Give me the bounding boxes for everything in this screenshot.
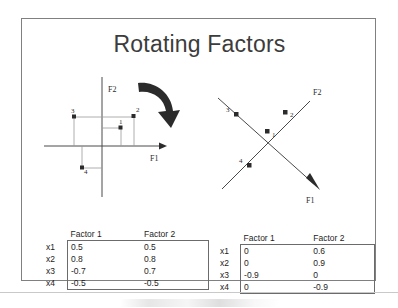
data-point-3-label: 3 [226, 106, 230, 114]
cell-x3-factor1: -0.9 [241, 269, 311, 281]
row-label-x1: x1 [46, 241, 68, 254]
data-point-2 [283, 110, 288, 115]
row-label-x1: x1 [220, 245, 241, 258]
f2-rotated-axis-label: F2 [313, 88, 321, 97]
table-header-row: Factor 1 Factor 2 [46, 228, 209, 241]
table-row: x2 0 0.9 [220, 257, 375, 269]
row-label-x2: x2 [220, 257, 241, 269]
table: Factor 1 Factor 2 x1 0.5 0.5 x2 0.8 0.8 [46, 228, 209, 290]
cell-x4-factor2: -0.5 [141, 277, 209, 290]
rotated-loadings-table: Factor 1 Factor 2 x1 0 0.6 x2 0 0.9 [220, 232, 375, 294]
page-divider [0, 292, 398, 293]
cell-x1-factor1: 0.5 [68, 241, 142, 254]
corner-cell [46, 228, 68, 241]
cell-x3-factor2: 0.7 [141, 265, 209, 277]
data-point-4 [247, 163, 252, 168]
table-head: Factor 1 Factor 2 [46, 228, 209, 241]
cell-x1-factor2: 0.5 [141, 241, 209, 254]
unrotated-loadings-table: Factor 1 Factor 2 x1 0.5 0.5 x2 0.8 0.8 [46, 228, 209, 290]
unrotated-plot-svg: 2 1 3 4 F2 F1 [30, 67, 200, 207]
table: Factor 1 Factor 2 x1 0 0.6 x2 0 0.9 [220, 232, 375, 294]
row-label-x2: x2 [46, 253, 68, 265]
table-row: x4 -0.5 -0.5 [46, 277, 209, 290]
cell-x2-factor1: 0.8 [68, 253, 142, 265]
table-head: Factor 1 Factor 2 [220, 232, 375, 245]
table-row: x3 -0.9 0 [220, 269, 375, 281]
f1-rotated-axis-label: F1 [306, 196, 314, 205]
row-label-x4: x4 [46, 277, 68, 290]
page-title: Rotating Factors [22, 31, 377, 58]
f1-axis-label: F1 [150, 154, 158, 163]
cell-x2-factor2: 0.9 [310, 257, 374, 269]
corner-cell [220, 232, 241, 245]
rotated-factor-plot: 2 1 3 4 F2 F1 [200, 67, 372, 207]
slide-frame: Rotating Factors [21, 18, 376, 281]
clockwise-rotation-arrow-icon [138, 83, 180, 128]
table-row: x3 -0.7 0.7 [46, 265, 209, 277]
data-point-2 [132, 114, 136, 118]
slide-root: Rotating Factors [0, 0, 398, 308]
f1-arrowhead-icon [159, 143, 167, 150]
cell-x2-factor2: 0.8 [141, 253, 209, 265]
row-label-x3: x3 [46, 265, 68, 277]
data-point-1-label: 1 [119, 118, 123, 126]
cell-x2-factor1: 0 [241, 257, 311, 269]
data-point-1 [265, 129, 270, 134]
column-header-factor-1: Factor 1 [241, 232, 311, 245]
table-body: x1 0 0.6 x2 0 0.9 x3 -0.9 0 [220, 245, 375, 294]
f1-rotated-arrowhead-icon [306, 173, 320, 190]
unrotated-factor-plot: 2 1 3 4 F2 F1 [30, 67, 200, 207]
cell-x3-factor1: -0.7 [68, 265, 142, 277]
data-point-2-label: 2 [136, 106, 140, 114]
table-row: x2 0.8 0.8 [46, 253, 209, 265]
data-point-1-label: 1 [272, 131, 276, 139]
data-point-4-label: 4 [239, 157, 243, 165]
data-point-3 [72, 115, 76, 119]
table-row: x1 0 0.6 [220, 245, 375, 258]
table-body: x1 0.5 0.5 x2 0.8 0.8 x3 -0.7 0.7 [46, 241, 209, 290]
cell-x1-factor2: 0.6 [310, 245, 374, 258]
column-header-factor-2: Factor 2 [310, 232, 374, 245]
data-point-3-label: 3 [71, 107, 75, 115]
cell-x3-factor2: 0 [310, 269, 374, 281]
data-point-2-label: 2 [290, 111, 294, 119]
column-header-factor-1: Factor 1 [68, 228, 142, 241]
page-footer-sliver [120, 299, 280, 307]
table-header-row: Factor 1 Factor 2 [220, 232, 375, 245]
cell-x1-factor1: 0 [241, 245, 311, 258]
data-point-1 [119, 126, 123, 130]
row-label-x3: x3 [220, 269, 241, 281]
column-header-factor-2: Factor 2 [141, 228, 209, 241]
data-point-4-label: 4 [84, 168, 88, 176]
data-point-3 [234, 112, 239, 117]
rotated-plot-svg: 2 1 3 4 F2 F1 [200, 67, 372, 207]
f2-axis-label: F2 [108, 85, 116, 94]
table-row: x1 0.5 0.5 [46, 241, 209, 254]
cell-x4-factor1: -0.5 [68, 277, 142, 290]
